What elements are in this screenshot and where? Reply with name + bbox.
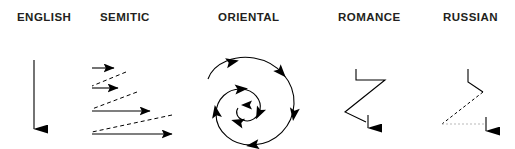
diagrams-canvas	[0, 0, 515, 149]
semitic-return-2	[92, 92, 137, 109]
semitic-return-1	[92, 72, 126, 86]
diagram-oriental	[208, 56, 300, 149]
diagram-romance	[345, 69, 385, 128]
thought-patterns-figure: ENGLISH SEMITIC ORIENTAL ROMANCE RUSSIAN	[0, 0, 515, 149]
semitic-return-3	[92, 115, 172, 132]
oriental-arrowhead-8	[230, 115, 245, 128]
russian-head-stroke	[468, 69, 483, 92]
russian-dashed-diagonal	[442, 92, 483, 124]
diagram-russian	[442, 69, 486, 131]
diagram-semitic	[92, 68, 172, 134]
romance-zigzag-path	[345, 69, 385, 122]
oriental-arrowhead-9	[241, 101, 252, 110]
oriental-arrowheads	[210, 56, 300, 149]
